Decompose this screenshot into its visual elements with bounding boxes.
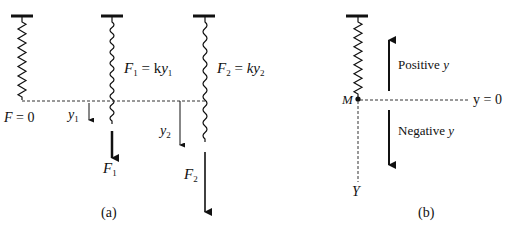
mass-label: M (342, 93, 353, 106)
spring-load-1 (110, 16, 114, 124)
f2-equation-label: F2 = ky2 (217, 61, 264, 76)
caption-b: (b) (418, 206, 434, 220)
f2-label: F2 (184, 167, 198, 182)
spring-load-2 (203, 16, 207, 142)
y2-label: y2 (160, 124, 171, 138)
panel-b (346, 16, 470, 182)
y1-label: y1 (68, 108, 79, 122)
caption-a: (a) (101, 206, 117, 220)
f1-label: F1 (103, 161, 117, 176)
panel-a (11, 16, 215, 212)
f1-equation-label: F1 = ky1 (124, 61, 172, 76)
negative-y-label: Negative y (398, 124, 454, 137)
spring-unloaded (18, 16, 26, 100)
y-zero-label: y = 0 (473, 93, 502, 107)
positive-y-label: Positive y (398, 58, 449, 71)
y-axis-end-label: Y (352, 185, 360, 199)
mass-point (355, 96, 360, 101)
spring-b (354, 16, 362, 97)
f-zero-label: F = 0 (4, 111, 34, 125)
